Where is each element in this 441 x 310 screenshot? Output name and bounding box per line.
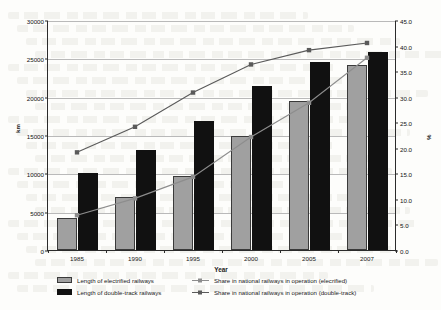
legend-row: Length of electrified railways Share in … bbox=[57, 274, 397, 286]
legend-item-double-track-share: Share in national railways in operation … bbox=[192, 289, 356, 296]
line-series bbox=[77, 58, 367, 215]
secondary-y-axis-tick-label: 5.0 bbox=[400, 222, 409, 229]
x-axis-tick-label: 2007 bbox=[360, 255, 374, 262]
line-marker bbox=[307, 48, 311, 52]
legend-swatch-gray-icon bbox=[57, 277, 72, 283]
legend-label: Length of double-track railways bbox=[77, 289, 161, 296]
line-marker bbox=[191, 90, 195, 94]
y-axis-tick-label: 20000 bbox=[27, 94, 44, 101]
plot-area: 0500010000150002000025000300000.05.010.0… bbox=[47, 21, 395, 251]
x-axis-tick-label: 2005 bbox=[302, 255, 316, 262]
x-axis-label: Year bbox=[214, 266, 228, 273]
line-series bbox=[77, 43, 367, 152]
x-axis-tick-mark bbox=[396, 250, 397, 253]
secondary-y-axis-tick-label: 15.0 bbox=[400, 171, 412, 178]
x-axis-tick-label: 1985 bbox=[70, 255, 84, 262]
legend-swatch-black-icon bbox=[57, 289, 72, 295]
line-marker bbox=[133, 196, 137, 200]
line-marker bbox=[365, 41, 369, 45]
line-marker bbox=[249, 135, 253, 139]
secondary-y-axis-tick-label: 0.0 bbox=[400, 248, 409, 255]
line-marker bbox=[249, 62, 253, 66]
chart-legend: Length of electrified railways Share in … bbox=[57, 274, 397, 298]
secondary-y-axis-tick-label: 40.0 bbox=[400, 43, 412, 50]
secondary-y-axis-tick-label: 30.0 bbox=[400, 94, 412, 101]
secondary-y-axis-tick-label: 25.0 bbox=[400, 120, 412, 127]
y-axis-tick-label: 5000 bbox=[30, 209, 44, 216]
legend-item-electrified-share: Share in national railways in operation … bbox=[192, 277, 347, 284]
x-axis-tick-label: 1995 bbox=[186, 255, 200, 262]
secondary-y-axis-tick-label: 45.0 bbox=[400, 18, 412, 25]
secondary-y-axis-tick-label: 20.0 bbox=[400, 145, 412, 152]
line-marker bbox=[75, 150, 79, 154]
line-marker bbox=[365, 56, 369, 60]
line-marker bbox=[75, 213, 79, 217]
secondary-y-axis-label: % bbox=[425, 134, 432, 140]
y-axis-tick-label: 25000 bbox=[27, 56, 44, 63]
line-marker bbox=[133, 125, 137, 129]
legend-item-double-track-bars: Length of double-track railways bbox=[57, 289, 192, 296]
y-axis-label: km bbox=[14, 124, 21, 133]
legend-label: Length of electrified railways bbox=[77, 277, 154, 284]
line-marker bbox=[307, 101, 311, 105]
line-marker bbox=[191, 175, 195, 179]
line-series-layer bbox=[48, 21, 396, 251]
secondary-y-axis-tick-label: 10.0 bbox=[400, 196, 412, 203]
legend-line-dark-icon bbox=[192, 289, 209, 296]
y-axis-tick-label: 15000 bbox=[27, 133, 44, 140]
legend-label: Share in national railways in operation … bbox=[214, 289, 356, 296]
secondary-y-axis-tick-label: 35.0 bbox=[400, 69, 412, 76]
railway-statistics-chart: km % 0500010000150002000025000300000.05.… bbox=[0, 0, 441, 310]
y-axis-tick-label: 0 bbox=[41, 248, 44, 255]
x-axis-tick-label: 1990 bbox=[128, 255, 142, 262]
legend-row: Length of double-track railways Share in… bbox=[57, 286, 397, 298]
y-axis-tick-label: 10000 bbox=[27, 171, 44, 178]
legend-item-electrified-bars: Length of electrified railways bbox=[57, 277, 192, 284]
x-axis-tick-label: 2000 bbox=[244, 255, 258, 262]
legend-label: Share in national railways in operation … bbox=[214, 277, 347, 284]
legend-line-light-icon bbox=[192, 277, 209, 284]
y-axis-tick-label: 30000 bbox=[27, 18, 44, 25]
